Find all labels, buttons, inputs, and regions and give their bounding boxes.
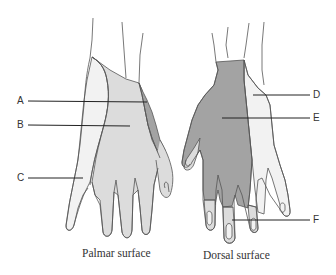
dorsal-hand: [182, 22, 290, 243]
hands-illustration: [0, 0, 336, 275]
label-f: F: [313, 215, 319, 225]
label-c: C: [17, 173, 24, 183]
label-e: E: [313, 113, 320, 123]
label-d: D: [313, 90, 320, 100]
hand-innervation-diagram: A B C D E F Palmar surface Dorsal surfac…: [0, 0, 336, 275]
caption-palmar-surface: Palmar surface: [82, 247, 151, 259]
label-b: B: [17, 120, 24, 130]
label-a: A: [17, 96, 24, 106]
palmar-hand: [66, 18, 173, 238]
caption-dorsal-surface: Dorsal surface: [203, 249, 270, 261]
